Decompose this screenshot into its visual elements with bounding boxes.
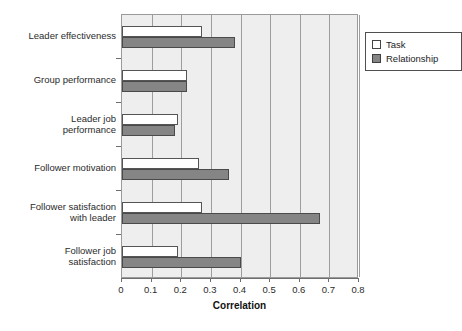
x-axis-tick — [358, 278, 359, 282]
bar-task — [122, 246, 178, 257]
y-axis-tick — [116, 58, 121, 59]
gridline — [211, 15, 212, 277]
bar-task — [122, 70, 187, 81]
x-axis-tick — [121, 278, 122, 282]
y-axis-tick — [116, 190, 121, 191]
bar-relationship — [122, 213, 320, 224]
gridline — [152, 15, 153, 277]
x-axis-tick-label: 0.5 — [254, 284, 284, 295]
plot-area: Task Relationship — [121, 14, 358, 278]
gridline — [181, 15, 182, 277]
x-axis-tick — [151, 278, 152, 282]
gridline — [270, 15, 271, 277]
x-axis-tick — [210, 278, 211, 282]
gridline — [329, 15, 330, 277]
x-axis-tick — [180, 278, 181, 282]
y-axis-tick — [116, 234, 121, 235]
y-axis-labels: Leader effectivenessGroup performanceLea… — [0, 0, 116, 331]
bar-task — [122, 158, 199, 169]
x-axis-tick-label: 0.3 — [195, 284, 225, 295]
x-axis-tick-label: 0.2 — [165, 284, 195, 295]
bar-relationship — [122, 37, 235, 48]
x-axis-title: Correlation — [121, 300, 358, 311]
legend-item-relationship: Relationship — [372, 51, 455, 65]
x-axis-tick-label: 0.7 — [313, 284, 343, 295]
x-axis-tick — [269, 278, 270, 282]
bar-relationship — [122, 125, 175, 136]
y-axis-category-label: Follower satisfactionwith leader — [2, 201, 116, 224]
gridline — [300, 15, 301, 277]
gridline — [241, 15, 242, 277]
bar-task — [122, 114, 178, 125]
y-axis-category-label: Follower jobsatisfaction — [2, 245, 116, 268]
bar-relationship — [122, 81, 187, 92]
relationship-swatch-icon — [372, 54, 381, 63]
bar-task — [122, 26, 202, 37]
legend-label-task: Task — [386, 39, 406, 50]
y-axis-tick — [116, 102, 121, 103]
y-axis-category-label: Follower motivation — [2, 162, 116, 174]
legend-label-relationship: Relationship — [386, 53, 438, 64]
bar-task — [122, 202, 202, 213]
x-axis-tick — [328, 278, 329, 282]
y-axis-category-label: Group performance — [2, 74, 116, 86]
legend-item-task: Task — [372, 37, 455, 51]
x-axis-tick — [299, 278, 300, 282]
x-axis-tick — [240, 278, 241, 282]
bar-relationship — [122, 257, 241, 268]
x-axis-tick-label: 0.6 — [284, 284, 314, 295]
gridline — [359, 15, 360, 277]
bar-relationship — [122, 169, 229, 180]
x-axis-tick-label: 0 — [106, 284, 136, 295]
x-axis-tick-label: 0.4 — [225, 284, 255, 295]
chart-legend: Task Relationship — [365, 32, 462, 71]
y-axis-category-label: Leader effectiveness — [2, 30, 116, 42]
x-axis-tick-label: 0.1 — [136, 284, 166, 295]
task-swatch-icon — [372, 40, 381, 49]
y-axis-category-label: Leader jobperformance — [2, 113, 116, 136]
y-axis-tick — [116, 146, 121, 147]
x-axis-tick-label: 0.8 — [343, 284, 373, 295]
